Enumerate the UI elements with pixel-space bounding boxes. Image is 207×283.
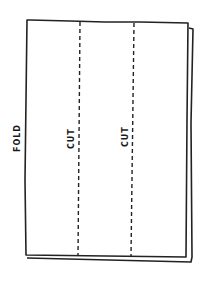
- paper-fold-diagram: FOLD CUT CUT: [0, 0, 207, 283]
- front-sheet-outline: [25, 20, 188, 257]
- cut-label-2: CUT: [121, 126, 130, 147]
- fold-label: FOLD: [13, 124, 22, 152]
- cut-label-1: CUT: [67, 128, 76, 149]
